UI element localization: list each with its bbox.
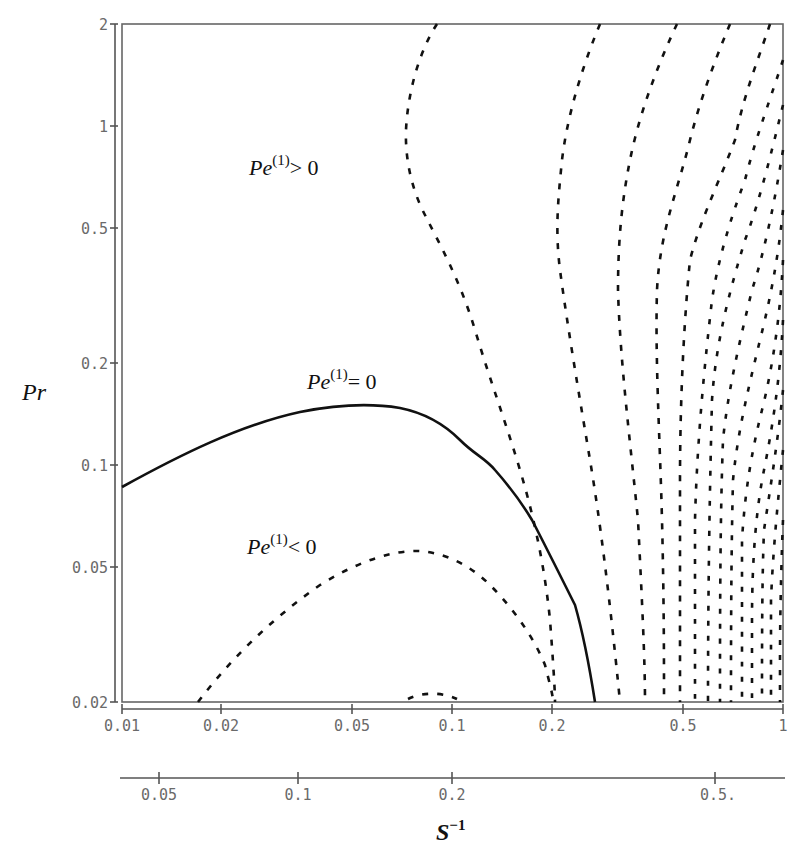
secondary-x-tick-labels: 0.05 0.1 0.2 0.5. <box>141 786 736 804</box>
x-tick-label: 1 <box>778 717 787 735</box>
y-tick-label: 2 <box>99 16 108 34</box>
x-tick-label: 0.01 <box>104 717 140 735</box>
y-tick-label: 0.5 <box>81 220 108 238</box>
annotation-positive: Pe(1)> 0 <box>248 152 319 180</box>
contour-pe-positive-3 <box>618 24 677 702</box>
contour-pe-zero <box>122 405 595 702</box>
y-tick-label: 0.2 <box>81 355 108 373</box>
annotation-zero: Pe(1)= 0 <box>306 366 377 394</box>
x-tick-label: 0.1 <box>438 717 465 735</box>
contour-chart: 2 1 0.5 0.2 0.1 0.05 0.02 0.01 0.02 0.05… <box>0 0 796 850</box>
contour-pe-positive-13 <box>771 450 783 702</box>
contour-pe-positive-1 <box>406 24 555 702</box>
y-ticks <box>110 24 118 702</box>
y-tick-label: 0.05 <box>72 559 108 577</box>
secondary-x-tick-label: 0.5. <box>700 786 736 804</box>
y-tick-label: 0.02 <box>72 694 108 712</box>
secondary-x-tick-label: 0.2 <box>438 786 465 804</box>
y-axis-label: Pr <box>21 379 47 405</box>
x-tick-labels: 0.01 0.02 0.05 0.1 0.2 0.5 1 <box>104 717 788 735</box>
y-tick-labels: 2 1 0.5 0.2 0.1 0.05 0.02 <box>72 16 108 712</box>
annotation-negative: Pe(1)< 0 <box>246 531 317 559</box>
y-tick-label: 0.1 <box>81 457 108 475</box>
y-tick-label: 1 <box>99 118 108 136</box>
secondary-x-tick-label: 0.05 <box>141 786 177 804</box>
contour-pe-positive-4 <box>657 24 730 702</box>
x-tick-label: 0.2 <box>538 717 565 735</box>
x-tick-label: 0.02 <box>203 717 239 735</box>
x-tick-label: 0.5 <box>669 717 696 735</box>
contour-pe-positive-2 <box>557 24 620 702</box>
x-tick-label: 0.05 <box>334 717 370 735</box>
contour-pe-positive-10 <box>742 260 783 702</box>
secondary-x-tick-label: 0.1 <box>284 786 311 804</box>
plot-frame <box>122 24 783 702</box>
x-axis-label: S−1 <box>436 817 465 845</box>
contour-pe-negative-island <box>408 694 457 699</box>
contour-pe-negative <box>198 551 553 702</box>
contour-pe-positive-9 <box>731 210 783 702</box>
